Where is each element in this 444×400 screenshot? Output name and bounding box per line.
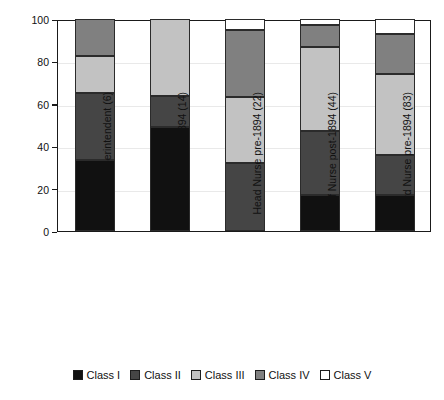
y-tick-label: 60	[0, 99, 57, 111]
legend-item[interactable]: Class II	[130, 369, 181, 381]
y-tick-label: 20	[0, 184, 57, 196]
legend-label: Class IV	[269, 369, 310, 381]
legend-item[interactable]: Class I	[73, 369, 121, 381]
bar-segment	[75, 19, 115, 56]
legend-label: Class I	[87, 369, 121, 381]
legend-swatch	[130, 370, 140, 380]
chart-legend: Class IClass IIClass IIIClass IVClass V	[0, 369, 444, 381]
x-axis-label: Superintendent (6)	[99, 88, 115, 238]
bar-segment	[300, 25, 340, 46]
legend-swatch	[73, 370, 83, 380]
legend-swatch	[255, 370, 265, 380]
stacked-bar-chart: Percentage 020406080100 Superintendent (…	[0, 0, 444, 400]
bar-segment	[375, 19, 415, 34]
y-tick-label: 0	[0, 226, 57, 238]
legend-swatch	[320, 370, 330, 380]
x-axis-label: Sister post-1894 (14)	[174, 88, 190, 238]
bar-segment	[375, 34, 415, 74]
bar-segment	[225, 19, 265, 30]
x-axis-label: Staff Nurse post-1894 (44)	[324, 88, 340, 238]
y-tick-label: 40	[0, 141, 57, 153]
legend-swatch	[191, 370, 201, 380]
legend-item[interactable]: Class IV	[255, 369, 310, 381]
legend-label: Class III	[205, 369, 245, 381]
y-tick-label: 100	[0, 14, 57, 26]
legend-label: Class V	[334, 369, 372, 381]
bar-segment	[300, 19, 340, 25]
y-tick-label: 80	[0, 56, 57, 68]
bar-segment	[150, 19, 190, 96]
x-axis-label: Head Nurse pre-1894 (22)	[249, 88, 265, 238]
legend-item[interactable]: Class V	[320, 369, 372, 381]
x-axis-label: Ward Nurse pre-1894 (83)	[399, 88, 415, 238]
legend-item[interactable]: Class III	[191, 369, 245, 381]
legend-label: Class II	[144, 369, 181, 381]
